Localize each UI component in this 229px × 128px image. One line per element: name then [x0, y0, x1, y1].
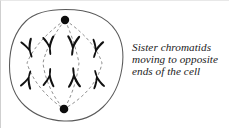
cell-membrane [10, 10, 124, 122]
figure-caption: Sister chromatids moving to opposite end… [132, 41, 228, 78]
caption-line-1: Sister chromatids [132, 41, 228, 53]
figure-root: Sister chromatids moving to opposite end… [0, 0, 229, 128]
caption-line-3: ends of the cell [132, 65, 228, 77]
top-spindle-pole [61, 16, 69, 24]
bottom-spindle-pole [60, 105, 69, 114]
cell-diagram [1, 1, 136, 128]
caption-line-2: moving to opposite [132, 53, 228, 65]
